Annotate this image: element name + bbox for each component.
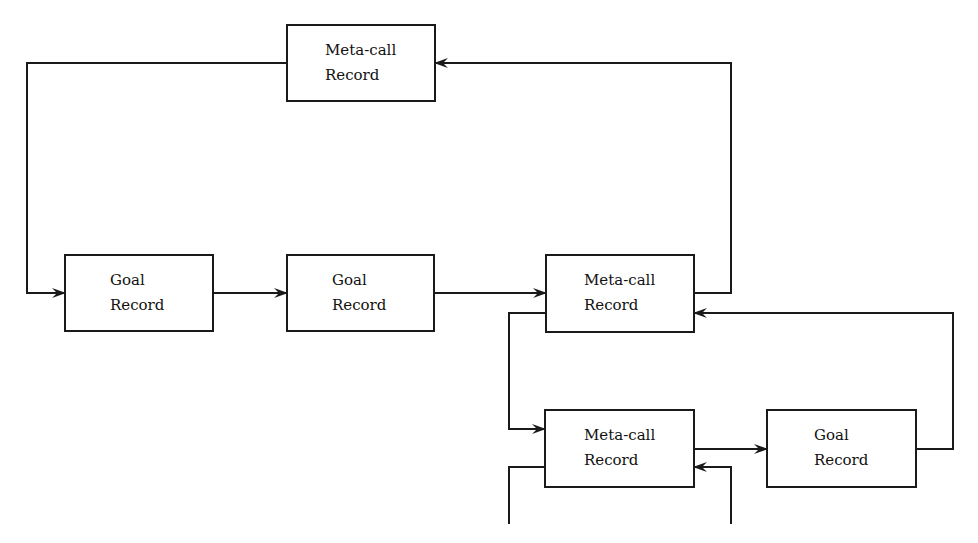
node-label-line1: Goal [814,426,849,444]
meta-call-record-middle: Meta-call Record [546,255,694,332]
node-label-line1: Goal [110,271,145,289]
meta-call-record-bottom: Meta-call Record [545,410,694,487]
goal-record-1: Goal Record [65,255,213,331]
node-label-line2: Record [584,296,639,314]
goal-record-3: Goal Record [767,410,916,487]
meta-call-record-top: Meta-call Record [287,25,435,101]
edge-meta-mid-to-meta-bottom [509,313,546,429]
node-label-line1: Goal [332,271,367,289]
goal-record-2: Goal Record [287,255,434,331]
node-label-line2: Record [110,296,165,314]
edge-continuation-into-meta-bottom [694,467,731,524]
node-label-line2: Record [814,451,869,469]
node-label-line1: Meta-call [325,41,396,59]
node-label-line2: Record [332,296,387,314]
node-label-line2: Record [584,451,639,469]
node-label-line2: Record [325,66,380,84]
record-chain-diagram: Meta-call Record Goal Record Goal Record… [0,0,978,543]
node-label-line1: Meta-call [584,271,655,289]
edge-meta-bottom-out-down [509,467,545,524]
node-label-line1: Meta-call [584,426,655,444]
